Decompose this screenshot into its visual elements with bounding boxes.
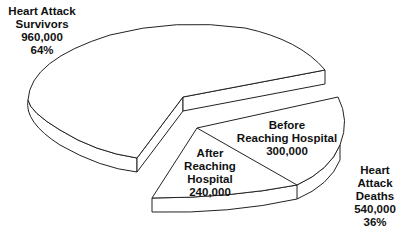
before-label-line1: Before bbox=[232, 119, 342, 132]
deaths-label: Heart Attack Deaths 540,000 36% bbox=[350, 164, 400, 226]
survivors-percent: 64% bbox=[2, 44, 82, 57]
survivors-label-line2: Survivors bbox=[2, 18, 82, 31]
after-label-line3: Hospital bbox=[180, 173, 240, 186]
survivors-value: 960,000 bbox=[2, 31, 82, 44]
survivors-label-line1: Heart Attack bbox=[2, 5, 82, 18]
deaths-percent: 36% bbox=[350, 216, 400, 226]
after-label: After Reaching Hospital 240,000 bbox=[180, 147, 240, 199]
survivors-label: Heart Attack Survivors 960,000 64% bbox=[2, 5, 82, 57]
before-label: Before Reaching Hospital 300,000 bbox=[232, 119, 342, 158]
deaths-label-line1: Heart bbox=[350, 164, 400, 177]
after-label-line2: Reaching bbox=[180, 160, 240, 173]
after-value: 240,000 bbox=[180, 186, 240, 199]
before-value: 300,000 bbox=[232, 145, 342, 158]
after-label-line1: After bbox=[180, 147, 240, 160]
deaths-label-line2: Attack bbox=[350, 177, 400, 190]
deaths-value: 540,000 bbox=[350, 203, 400, 216]
deaths-label-line3: Deaths bbox=[350, 190, 400, 203]
before-label-line2: Reaching Hospital bbox=[232, 132, 342, 145]
